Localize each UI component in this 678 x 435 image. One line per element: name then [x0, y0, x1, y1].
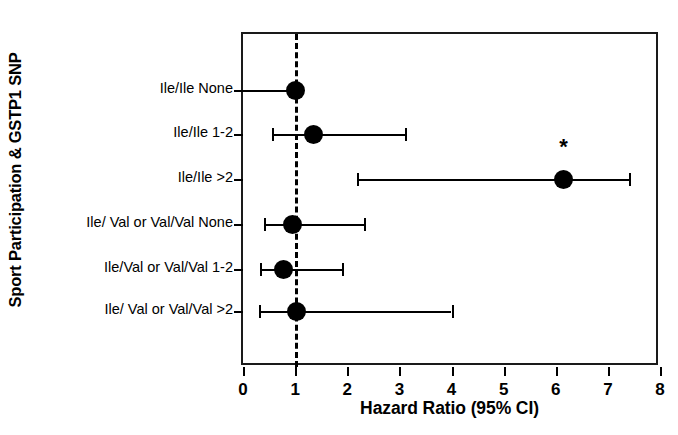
confidence-interval-upper-cap: [405, 128, 407, 141]
forest-plot-figure: Sport Participation & GSTP1 SNP Ile/Ile …: [0, 0, 678, 435]
confidence-interval-line: [272, 134, 405, 136]
hazard-ratio-marker: [283, 215, 302, 234]
x-axis-tick: [347, 367, 349, 376]
hazard-ratio-marker: [554, 170, 573, 189]
y-axis-tick: [234, 224, 243, 226]
y-axis-tick: [234, 269, 243, 271]
x-axis-tick-label: 8: [655, 380, 664, 400]
confidence-interval-lower-cap: [357, 173, 359, 186]
x-axis-tick: [243, 367, 245, 376]
x-axis-title: Hazard Ratio (95% CI): [241, 398, 658, 419]
x-axis-tick: [556, 367, 558, 376]
x-axis-tick-label: 4: [447, 380, 456, 400]
y-axis-category-label: Ile/ Val or Val/Val None: [86, 214, 233, 230]
confidence-interval-upper-cap: [452, 305, 454, 318]
x-axis-tick: [399, 367, 401, 376]
y-axis-category-label: Ile/Ile >2: [178, 169, 233, 185]
y-axis-tick: [234, 90, 243, 92]
confidence-interval-line: [357, 179, 629, 181]
y-axis-category-label: Ile/ Val or Val/Val >2: [104, 301, 233, 317]
y-axis-tick: [234, 134, 243, 136]
confidence-interval-upper-cap: [364, 218, 366, 231]
y-axis-category-label: Ile/Ile None: [160, 80, 233, 96]
y-axis-category-label: Ile/Ile 1-2: [173, 124, 233, 140]
y-axis-tick: [234, 179, 243, 181]
y-axis-tick: [234, 311, 243, 313]
confidence-interval-line: [260, 269, 342, 271]
confidence-interval-lower-cap: [264, 218, 266, 231]
hazard-ratio-marker: [287, 302, 306, 321]
x-axis-tick: [295, 367, 297, 376]
hazard-ratio-marker: [304, 125, 323, 144]
confidence-interval-lower-cap: [259, 305, 261, 318]
x-axis-tick: [660, 367, 662, 376]
confidence-interval-upper-cap: [629, 173, 631, 186]
x-axis-tick-label: 3: [395, 380, 404, 400]
x-axis-tick: [608, 367, 610, 376]
plot-area: 012345678*: [241, 32, 658, 365]
significance-asterisk: *: [559, 136, 568, 158]
hazard-ratio-marker: [286, 81, 305, 100]
x-axis-tick-label: 6: [551, 380, 560, 400]
y-axis-category-labels: Ile/Ile NoneIle/Ile 1-2Ile/Ile >2Ile/ Va…: [0, 32, 233, 365]
confidence-interval-lower-cap: [272, 128, 274, 141]
x-axis-tick-label: 1: [290, 380, 299, 400]
x-axis-tick-label: 0: [238, 380, 247, 400]
confidence-interval-upper-cap: [342, 263, 344, 276]
x-axis-tick: [504, 367, 506, 376]
x-axis-tick: [452, 367, 454, 376]
x-axis-tick-label: 5: [499, 380, 508, 400]
y-axis-category-label: Ile/Val or Val/Val 1-2: [104, 259, 233, 275]
hazard-ratio-marker: [274, 260, 293, 279]
confidence-interval-lower-cap: [260, 263, 262, 276]
x-axis-tick-label: 2: [343, 380, 352, 400]
confidence-interval-line: [264, 224, 364, 226]
x-axis-tick-label: 7: [603, 380, 612, 400]
